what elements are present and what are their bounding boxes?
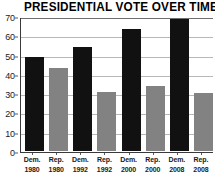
y-tick-mark [15, 133, 18, 134]
x-tick-label: Rep.2000 [141, 155, 165, 174]
y-tick-label: 70 [5, 13, 15, 23]
y-tick-label: 10 [5, 129, 15, 139]
presidential-vote-bar-chart: PRESIDENTIAL VOTE OVER TIME 010203040506… [0, 0, 215, 178]
bar-rep-2008 [194, 93, 213, 151]
x-tick-label: Dem.2000 [117, 155, 141, 174]
y-tick-mark [15, 37, 18, 38]
x-tick-label: Rep.1980 [44, 155, 68, 174]
bar-rep-1980 [49, 68, 68, 151]
x-tick-party: Dem. [117, 155, 141, 165]
bars-group [23, 18, 214, 151]
x-tick-party: Rep. [44, 155, 68, 165]
y-tick-label: 40 [5, 71, 15, 81]
y-tick-mark [15, 153, 18, 154]
y-tick-mark [15, 75, 18, 76]
bar-dem-1980 [25, 57, 44, 151]
y-tick-mark [15, 95, 18, 96]
plot-area [20, 18, 213, 153]
x-tick-label: Dem.1980 [20, 155, 44, 174]
x-tick-party: Rep. [92, 155, 116, 165]
y-tick-mark [15, 18, 18, 19]
y-tick-label: 30 [5, 90, 15, 100]
bar-rep-1992 [97, 92, 116, 151]
y-tick-label: 20 [5, 109, 15, 119]
x-tick-party: Dem. [165, 155, 189, 165]
x-tick-party: Dem. [68, 155, 92, 165]
x-tick-label: Rep.1992 [92, 155, 116, 174]
y-axis: 010203040506070 [0, 18, 18, 153]
chart-title: PRESIDENTIAL VOTE OVER TIME [24, 0, 209, 15]
x-tick-year: 2000 [141, 165, 165, 175]
x-tick-year: 2008 [189, 165, 213, 175]
x-tick-year: 1992 [92, 165, 116, 175]
x-tick-year: 1992 [68, 165, 92, 175]
x-tick-party: Rep. [189, 155, 213, 165]
y-tick-mark [15, 114, 18, 115]
y-tick-mark [15, 56, 18, 57]
x-tick-party: Dem. [20, 155, 44, 165]
x-tick-year: 2008 [165, 165, 189, 175]
x-axis: Dem.1980Rep.1980Dem.1992Rep.1992Dem.2000… [20, 155, 213, 178]
x-tick-year: 1980 [44, 165, 68, 175]
bar-rep-2000 [146, 86, 165, 151]
x-tick-year: 2000 [117, 165, 141, 175]
x-tick-label: Rep.2008 [189, 155, 213, 174]
y-tick-label: 60 [5, 32, 15, 42]
bar-dem-1992 [73, 47, 92, 150]
x-tick-party: Rep. [141, 155, 165, 165]
y-tick-label: 50 [5, 52, 15, 62]
x-tick-year: 1980 [20, 165, 44, 175]
bar-dem-2008 [170, 19, 189, 150]
x-tick-label: Dem.2008 [165, 155, 189, 174]
bar-dem-2000 [122, 29, 141, 151]
x-tick-label: Dem.1992 [68, 155, 92, 174]
